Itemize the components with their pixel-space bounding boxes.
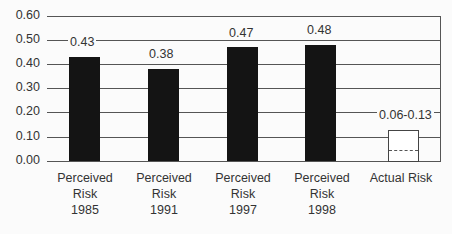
- y-tick-label: 0.60: [0, 8, 40, 22]
- plot-right-border: [440, 16, 441, 161]
- x-tick-label: PerceivedRisk1997: [203, 170, 283, 218]
- y-tick-label: 0.10: [0, 129, 40, 143]
- bar-perceived-1991: [148, 69, 179, 161]
- bar-actual-risk: [388, 130, 419, 162]
- value-label: 0.38: [147, 47, 175, 61]
- bar-chart: 0.60 0.50 0.40 0.30 0.20 0.10 0.00 0.43 …: [0, 0, 452, 234]
- value-label: 0.06-0.13: [377, 108, 434, 122]
- y-tick-label: 0.00: [0, 153, 40, 167]
- value-label: 0.47: [227, 26, 255, 40]
- value-label: 0.48: [305, 23, 333, 37]
- gridline: [47, 16, 441, 17]
- gridline: [47, 40, 441, 41]
- x-axis-line: [47, 161, 441, 162]
- x-tick-label: PerceivedRisk1998: [282, 170, 362, 218]
- y-tick-label: 0.20: [0, 104, 40, 118]
- y-tick-label: 0.30: [0, 80, 40, 94]
- x-tick-label: PerceivedRisk1991: [124, 170, 204, 218]
- bar-perceived-1997: [227, 47, 258, 161]
- y-tick-label: 0.50: [0, 32, 40, 46]
- x-tick-label: Actual Risk: [361, 170, 441, 186]
- bar-perceived-1998: [305, 45, 336, 161]
- value-label: 0.43: [68, 35, 96, 49]
- x-tick-label: PerceivedRisk1985: [45, 170, 125, 218]
- actual-risk-lower-bound-line: [389, 150, 418, 151]
- bar-perceived-1985: [69, 57, 100, 161]
- y-tick-label: 0.40: [0, 56, 40, 70]
